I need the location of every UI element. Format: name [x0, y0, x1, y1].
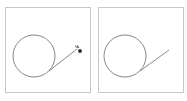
circle-shape[interactable]: [13, 35, 55, 77]
tangent-line[interactable]: [49, 49, 77, 71]
right-diagram: [99, 8, 183, 92]
left-diagram-panel: [5, 7, 91, 93]
tangent-line[interactable]: [140, 50, 169, 71]
circle-shape[interactable]: [104, 35, 146, 77]
cursor-icon: [75, 45, 82, 53]
right-diagram-panel: [98, 7, 184, 93]
left-diagram: [6, 8, 90, 92]
